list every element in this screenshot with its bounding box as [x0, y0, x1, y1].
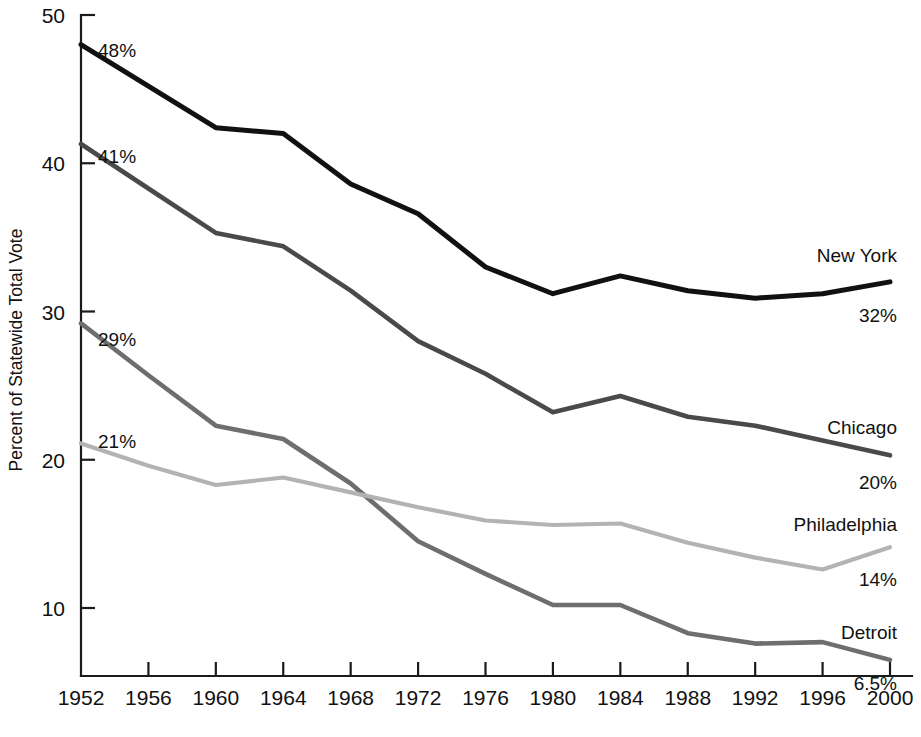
- x-axis-tick-label: 1960: [192, 686, 239, 709]
- annotation-chicago-end: 20%: [859, 472, 897, 493]
- chart-plot-area: 1020304050 19521956196019641968197219761…: [0, 0, 921, 737]
- annotation-ny-start: 48%: [98, 40, 136, 61]
- x-axis-tick-label: 1984: [597, 686, 644, 709]
- annotation-chicago-start: 41%: [98, 146, 136, 167]
- annotation-detroit-end: 6.5%: [854, 673, 897, 694]
- series-label-chicago: Chicago: [827, 417, 897, 438]
- x-axis-tick-label: 1988: [664, 686, 711, 709]
- series-label-new-york: New York: [817, 245, 898, 266]
- x-axis-tick-label: 1972: [395, 686, 442, 709]
- series-label-detroit: Detroit: [841, 622, 898, 643]
- series-line-philadelphia: [81, 443, 890, 569]
- x-axis-tick-label: 1976: [462, 686, 509, 709]
- axes: 1020304050 19521956196019641968197219761…: [42, 4, 914, 709]
- y-axis-tick-label: 40: [42, 152, 65, 175]
- y-axis-ticks: 1020304050: [42, 4, 95, 620]
- x-axis-tick-label: 1968: [327, 686, 374, 709]
- annotation-philadelphia-start: 21%: [98, 431, 136, 452]
- x-axis-tick-label: 1952: [58, 686, 105, 709]
- series-line-new-york: [81, 45, 890, 299]
- x-axis-tick-label: 1992: [732, 686, 779, 709]
- y-axis-tick-label: 30: [42, 301, 65, 324]
- x-axis-tick-label: 1964: [260, 686, 307, 709]
- x-axis-tick-label: 1956: [125, 686, 172, 709]
- annotation-philadelphia-end: 14%: [859, 569, 897, 590]
- series-label-philadelphia: Philadelphia: [793, 514, 897, 535]
- line-chart: 1020304050 19521956196019641968197219761…: [0, 0, 921, 737]
- y-axis-tick-label: 20: [42, 449, 65, 472]
- y-axis-title: Percent of Statewide Total Vote: [6, 229, 26, 472]
- x-axis-ticks: 1952195619601964196819721976198019841988…: [58, 662, 914, 709]
- y-axis-tick-label: 50: [42, 4, 65, 27]
- x-axis-tick-label: 1980: [530, 686, 577, 709]
- y-axis-tick-label: 10: [42, 597, 65, 620]
- x-axis-tick-label: 1996: [799, 686, 846, 709]
- annotation-detroit-start: 29%: [98, 329, 136, 350]
- annotation-ny-end: 32%: [859, 305, 897, 326]
- series-lines: [81, 45, 890, 660]
